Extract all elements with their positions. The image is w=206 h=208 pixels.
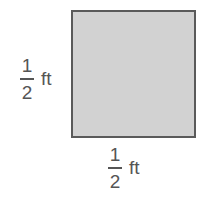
numerator: 1	[22, 56, 33, 76]
fraction: 1 2	[108, 145, 122, 191]
denominator: 2	[110, 172, 121, 191]
unit: ft	[41, 68, 52, 90]
unit: ft	[129, 157, 140, 179]
fraction: 1 2	[20, 56, 34, 102]
left-side-label: 1 2 ft	[20, 56, 52, 102]
bottom-side-label: 1 2 ft	[108, 145, 140, 191]
fraction-bar	[20, 78, 34, 80]
denominator: 2	[22, 83, 33, 102]
fraction-bar	[108, 167, 122, 169]
square-shape	[71, 10, 196, 138]
numerator: 1	[110, 145, 121, 165]
